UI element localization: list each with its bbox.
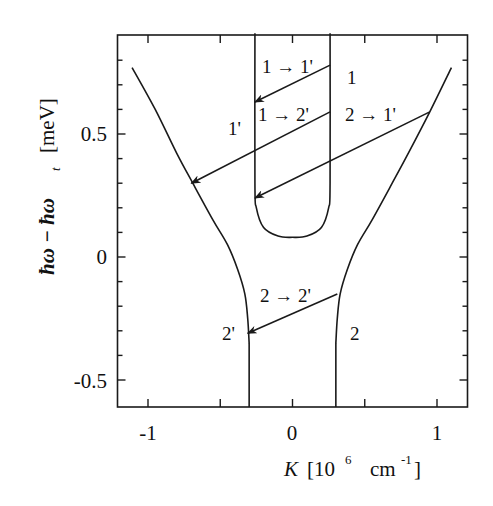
x-axis-exponent: 6 (345, 452, 352, 467)
label-2-to-2p: 2 → 2' (260, 285, 311, 306)
x-tick-label-0: 0 (287, 421, 298, 445)
curve-1- (132, 68, 249, 344)
y-tick-label-neg0.5: -0.5 (74, 369, 107, 393)
x-axis-ticks (148, 35, 437, 407)
branch-label-2: 2 (350, 323, 360, 344)
label-1-to-2p: 1 → 2' (258, 104, 309, 125)
plot-frame (118, 35, 468, 407)
x-axis-unit-open: [10 (307, 457, 335, 481)
y-tick-label-0.5: 0.5 (81, 122, 107, 146)
y-tick-label-0: 0 (97, 245, 108, 269)
branch-label-1: 1 (347, 67, 357, 88)
y-axis-label: ħω − ħω t [meV] (35, 98, 63, 275)
x-axis-unit-close: ] (414, 457, 421, 481)
x-tick-label-1: 1 (432, 421, 443, 445)
dispersion-curves (132, 33, 451, 407)
y-axis-quantity: ħω − ħω (35, 198, 59, 275)
x-axis-unit-cm: cm (370, 457, 396, 481)
x-axis-label: K [10 6 cm -1 ] (283, 452, 421, 481)
label-2-to-1p: 2 → 1' (345, 104, 396, 125)
dispersion-chart: -1 0 1 0.5 0 -0.5 K [10 6 cm -1 ] ħω − ħ… (0, 0, 493, 506)
label-1-to-1p: 1 → 1' (262, 56, 313, 77)
x-axis-symbol: K (283, 457, 299, 481)
y-axis-unit: [meV] (35, 98, 59, 153)
branch-label-1p: 1' (228, 118, 241, 139)
branch-label-2p: 2' (222, 323, 235, 344)
y-axis-subscript: t (48, 167, 63, 171)
x-tick-label-neg1: -1 (139, 421, 157, 445)
x-axis-exponent2: -1 (401, 452, 412, 467)
